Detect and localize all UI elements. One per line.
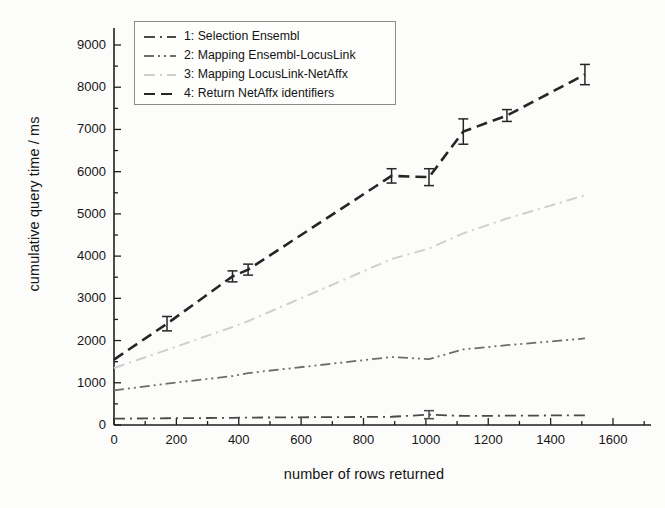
legend-label-series-2: 2: Mapping Ensembl-LocusLink [184, 49, 356, 61]
legend-item-4: 4: Return NetAffx identifiers [143, 84, 387, 103]
series-line-2 [114, 338, 585, 390]
error-bar-series-1 [424, 411, 434, 419]
series-line-3 [114, 195, 585, 368]
legend-swatch-series-2 [143, 50, 177, 62]
series-line-4 [114, 75, 585, 360]
error-bar-series-4 [580, 64, 590, 84]
legend-label-series-3: 3: Mapping LocusLink-NetAffx [184, 68, 348, 80]
legend-label-series-1: 1: Selection Ensembl [184, 30, 300, 42]
error-bar-series-4 [162, 316, 172, 330]
error-bar-series-4 [502, 110, 512, 122]
chart-figure: cumulative query time / ms number of row… [0, 0, 665, 508]
legend-swatch-series-1 [143, 31, 177, 43]
legend-swatch-series-4 [143, 88, 177, 100]
legend-item-2: 2: Mapping Ensembl-LocusLink [143, 46, 387, 65]
legend-label-series-4: 4: Return NetAffx identifiers [184, 87, 334, 99]
error-bar-series-4 [243, 264, 253, 275]
legend-item-1: 1: Selection Ensembl [143, 27, 387, 46]
series-line-1 [114, 415, 585, 419]
legend-item-3: 3: Mapping LocusLink-NetAffx [143, 65, 387, 84]
legend-swatch-series-3 [143, 69, 177, 81]
chart-legend: 1: Selection Ensembl 2: Mapping Ensembl-… [134, 21, 396, 105]
error-bar-series-4 [387, 169, 397, 183]
